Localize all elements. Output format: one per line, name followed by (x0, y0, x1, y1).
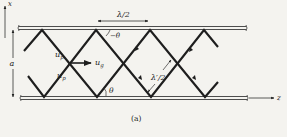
phase-velocity-labels: up up (55, 50, 66, 82)
group-velocity-label: ug (95, 58, 104, 69)
plate-separation-label: a (10, 59, 15, 68)
half-wavelength-label: λ/2 (116, 10, 130, 19)
arrowhead-down-2 (192, 75, 196, 80)
bottom-plate (20, 95, 248, 101)
x-axis-label: x (8, 0, 12, 8)
angle-top-label: −θ (110, 32, 121, 40)
x-axis: x (5, 0, 12, 38)
z-axis-label: z (276, 94, 281, 102)
group-velocity-vector: ug (70, 58, 104, 69)
top-plate (18, 25, 247, 31)
phase-velocity-lower-label: up (57, 71, 66, 82)
waveguide-diagram: x a z (0, 0, 287, 137)
phase-velocity-upper-label: up (55, 50, 64, 61)
angle-top: −θ (106, 30, 121, 40)
arrowhead-down-1 (138, 75, 142, 80)
half-wavelength-dimension: λ/2 (98, 10, 148, 21)
angle-bottom-label: θ (109, 86, 114, 95)
plate-separation-dimension: a (9, 30, 17, 97)
ray-path-2 (28, 30, 218, 97)
z-axis: z (249, 94, 281, 102)
figure-caption: (a) (131, 114, 141, 123)
guide-half-wavelength-label: λ′/2 (150, 73, 166, 82)
zigzag-rays (24, 30, 218, 97)
